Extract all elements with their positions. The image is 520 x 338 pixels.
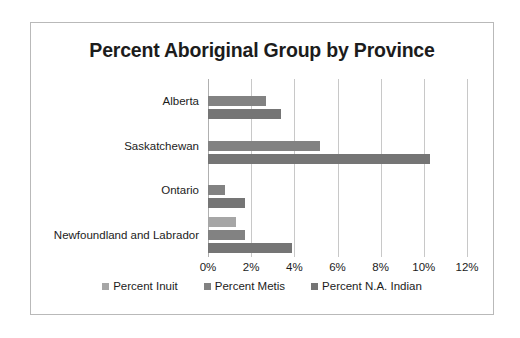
gridline-12pct: [467, 79, 468, 257]
bar-series-container: [208, 79, 467, 257]
bar-row: [208, 217, 467, 227]
bar-percent-n-a-indian[interactable]: [208, 109, 281, 119]
bar-row: [208, 96, 467, 106]
legend-swatch-icon: [102, 283, 109, 290]
category-label-saskatchewan: Saskatchewan: [124, 140, 199, 152]
chart-frame: Percent Aboriginal Group by Province Alb…: [30, 22, 494, 315]
legend-item-percent-inuit[interactable]: Percent Inuit: [102, 280, 178, 292]
legend-swatch-icon: [311, 283, 318, 290]
legend-item-percent-n-a-indian[interactable]: Percent N.A. Indian: [311, 280, 422, 292]
x-tick-label: 8%: [372, 261, 389, 273]
bar-percent-metis[interactable]: [208, 230, 245, 240]
category-label-ontario: Ontario: [161, 184, 199, 196]
x-tick-label: 4%: [286, 261, 303, 273]
bar-percent-metis[interactable]: [208, 185, 225, 195]
bar-row: [208, 141, 467, 151]
legend-label: Percent Inuit: [113, 280, 178, 292]
category-axis-labels: AlbertaSaskatchewanOntarioNewfoundland a…: [31, 79, 205, 257]
x-tick-label: 6%: [329, 261, 346, 273]
x-tick-label: 10%: [412, 261, 435, 273]
bar-row: [208, 83, 467, 93]
bar-percent-metis[interactable]: [208, 141, 320, 151]
bar-percent-n-a-indian[interactable]: [208, 198, 245, 208]
x-tick-label: 12%: [455, 261, 478, 273]
bar-row: [208, 172, 467, 182]
bar-row: [208, 230, 467, 240]
bar-row: [208, 185, 467, 195]
bar-group: [208, 79, 467, 124]
bar-group: [208, 213, 467, 258]
bar-percent-n-a-indian[interactable]: [208, 154, 430, 164]
bar-row: [208, 154, 467, 164]
category-label-alberta: Alberta: [163, 95, 199, 107]
legend-item-percent-metis[interactable]: Percent Metis: [204, 280, 285, 292]
plot-area: [208, 79, 467, 257]
bar-group: [208, 168, 467, 213]
bar-group: [208, 124, 467, 169]
legend-label: Percent N.A. Indian: [322, 280, 422, 292]
bar-percent-inuit[interactable]: [208, 217, 236, 227]
chart-legend: Percent InuitPercent MetisPercent N.A. I…: [31, 280, 493, 292]
bar-row: [208, 109, 467, 119]
legend-swatch-icon: [204, 283, 211, 290]
chart-title: Percent Aboriginal Group by Province: [31, 39, 493, 62]
legend-label: Percent Metis: [215, 280, 285, 292]
bar-percent-metis[interactable]: [208, 96, 266, 106]
bar-row: [208, 128, 467, 138]
x-tick-label: 0%: [200, 261, 217, 273]
bar-row: [208, 243, 467, 253]
x-tick-label: 2%: [243, 261, 260, 273]
x-axis-tick-labels: 0%2%4%6%8%10%12%: [208, 261, 467, 279]
category-label-newfoundland-and-labrador: Newfoundland and Labrador: [54, 229, 199, 241]
bar-percent-n-a-indian[interactable]: [208, 243, 292, 253]
bar-row: [208, 198, 467, 208]
